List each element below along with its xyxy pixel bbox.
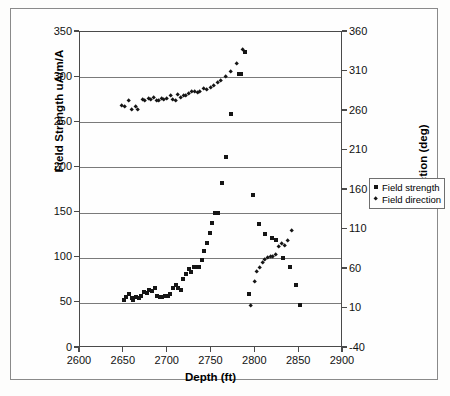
y-axis-left-tickmark bbox=[74, 76, 79, 77]
data-point bbox=[181, 277, 185, 281]
y-axis-right-tickmark bbox=[342, 149, 347, 150]
y-axis-right-tick-label: 210 bbox=[349, 144, 389, 155]
y-axis-left-tick-label: 50 bbox=[31, 296, 72, 307]
data-point bbox=[131, 298, 135, 302]
y-axis-right-tick-label: 260 bbox=[349, 105, 389, 116]
plot-area bbox=[79, 31, 342, 347]
data-point bbox=[220, 181, 224, 185]
data-point bbox=[257, 265, 262, 270]
y-axis-left-tickmark bbox=[74, 166, 79, 167]
data-point bbox=[298, 303, 302, 307]
data-point bbox=[171, 286, 175, 290]
data-point bbox=[202, 249, 206, 253]
x-axis-tickmark bbox=[254, 347, 255, 352]
y-axis-left-tick-label: 100 bbox=[31, 251, 72, 262]
diamond-marker-icon bbox=[373, 195, 381, 204]
data-point bbox=[223, 75, 228, 80]
data-point bbox=[229, 112, 233, 116]
square-marker-icon bbox=[373, 183, 381, 192]
data-point bbox=[251, 193, 255, 197]
data-point bbox=[168, 292, 172, 296]
data-point bbox=[255, 270, 260, 275]
x-axis-tick-label: 2700 bbox=[147, 355, 187, 366]
data-point bbox=[263, 232, 267, 236]
gridline bbox=[80, 258, 341, 259]
y-axis-right-tickmark bbox=[342, 30, 347, 31]
chart-legend: Field strength Field direction bbox=[369, 178, 445, 209]
data-point bbox=[294, 283, 298, 287]
y-axis-right-tick-label: 10 bbox=[349, 302, 389, 313]
legend-label: Field strength bbox=[381, 182, 440, 193]
x-axis-tick-label: 2750 bbox=[191, 355, 231, 366]
y-axis-right-tick-label: -40 bbox=[349, 342, 389, 353]
y-axis-right-tick-label: 310 bbox=[349, 65, 389, 76]
x-axis-tickmark bbox=[341, 347, 342, 352]
data-point bbox=[288, 265, 292, 269]
x-axis-tick-label: 2850 bbox=[278, 355, 318, 366]
gridline bbox=[80, 213, 341, 214]
x-axis-tick-label: 2650 bbox=[103, 355, 143, 366]
y-axis-left-tick-label: 300 bbox=[31, 71, 72, 82]
x-axis-title: Depth (ft) bbox=[79, 371, 342, 383]
data-point bbox=[257, 222, 261, 226]
y-axis-right-tick-label: 360 bbox=[349, 26, 389, 37]
y-axis-right-tickmark bbox=[342, 228, 347, 229]
gridline bbox=[80, 167, 341, 168]
data-point bbox=[219, 78, 224, 83]
data-point bbox=[205, 241, 209, 245]
data-point bbox=[235, 61, 240, 66]
data-point bbox=[164, 97, 169, 102]
data-point bbox=[252, 279, 257, 284]
data-point bbox=[281, 256, 285, 260]
x-axis-tickmark bbox=[166, 347, 167, 352]
gridline bbox=[80, 122, 341, 123]
y-axis-left-tick-label: 250 bbox=[31, 116, 72, 127]
x-axis-tickmark bbox=[298, 347, 299, 352]
data-point bbox=[189, 270, 193, 274]
figure-frame: 050100150200250300350 -40106011016021026… bbox=[10, 8, 438, 380]
data-point bbox=[173, 98, 178, 103]
data-point bbox=[122, 104, 127, 109]
gridline bbox=[80, 77, 341, 78]
data-point bbox=[216, 211, 220, 215]
data-point bbox=[135, 107, 140, 112]
y-axis-left-tick-label: 350 bbox=[31, 26, 72, 37]
x-axis-tick-label: 2600 bbox=[59, 355, 99, 366]
y-axis-right-tickmark bbox=[342, 346, 347, 347]
y-axis-right-tickmark bbox=[342, 267, 347, 268]
data-point bbox=[239, 72, 243, 76]
y-axis-left-tickmark bbox=[74, 256, 79, 257]
y-axis-right-tickmark bbox=[342, 307, 347, 308]
y-axis-left-tickmark bbox=[74, 211, 79, 212]
y-axis-left-tickmark bbox=[74, 121, 79, 122]
y-axis-right-tick-label: 110 bbox=[349, 223, 389, 234]
y-axis-left-tick-label: 150 bbox=[31, 206, 72, 217]
data-point bbox=[210, 221, 214, 225]
y-axis-left-title: Field Strength uA/m/A bbox=[53, 21, 65, 201]
x-axis-tick-label: 2900 bbox=[322, 355, 362, 366]
x-axis-tickmark bbox=[78, 347, 79, 352]
y-axis-right-tickmark bbox=[342, 70, 347, 71]
y-axis-left-tickmark bbox=[74, 30, 79, 31]
data-point bbox=[200, 258, 204, 262]
x-axis-tickmark bbox=[122, 347, 123, 352]
data-point bbox=[139, 294, 143, 298]
data-point bbox=[283, 243, 288, 248]
data-point bbox=[228, 69, 233, 74]
y-axis-right-tickmark bbox=[342, 188, 347, 189]
x-axis-tickmark bbox=[210, 347, 211, 352]
data-point bbox=[124, 295, 128, 299]
data-point bbox=[224, 155, 228, 159]
data-point bbox=[274, 238, 278, 242]
data-point bbox=[184, 272, 188, 276]
legend-item-field-strength: Field strength bbox=[373, 181, 441, 193]
data-point bbox=[127, 292, 131, 296]
y-axis-right-tickmark bbox=[342, 109, 347, 110]
data-point bbox=[208, 231, 212, 235]
x-axis-tick-label: 2800 bbox=[234, 355, 274, 366]
legend-item-field-direction: Field direction bbox=[373, 193, 441, 205]
chart-screenshot: 050100150200250300350 -40106011016021026… bbox=[0, 0, 450, 396]
data-point bbox=[289, 229, 294, 234]
y-axis-left-tick-label: 200 bbox=[31, 161, 72, 172]
legend-label: Field direction bbox=[381, 194, 441, 205]
